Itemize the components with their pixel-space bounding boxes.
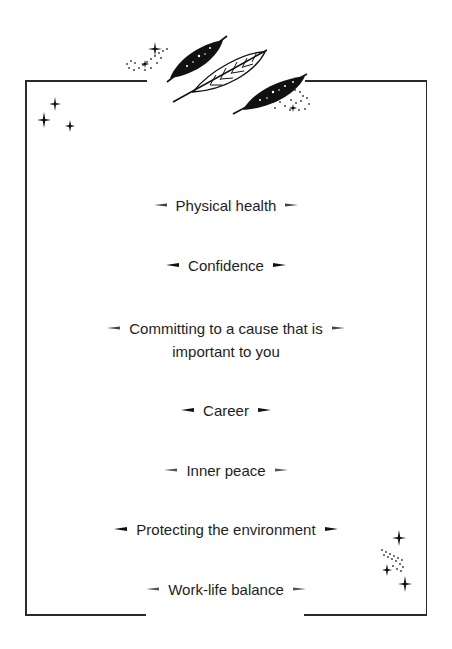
- feathers-icon: [115, 30, 335, 120]
- value-item-confidence: Confidence: [0, 252, 452, 276]
- dash-left-icon: [146, 588, 159, 591]
- value-item-career: Career: [0, 397, 452, 421]
- value-item-physical-health: Physical health: [0, 192, 452, 216]
- dash-right-icon: [293, 588, 306, 591]
- item-label: Inner peace: [186, 461, 265, 481]
- dash-right-icon: [285, 204, 298, 207]
- item-label: Work-life balance: [168, 580, 284, 600]
- dash-left-icon: [181, 409, 194, 412]
- item-label: Confidence: [188, 256, 264, 276]
- dash-right-icon: [275, 469, 288, 472]
- item-label: Protecting the environment: [136, 520, 315, 540]
- dash-right-icon: [332, 327, 345, 330]
- dash-right-icon: [273, 264, 286, 267]
- value-item-work-life-balance: Work-life balance: [0, 576, 452, 600]
- value-item-committing-to-a-cause: Committing to a cause that is important …: [0, 315, 452, 362]
- item-label: Physical health: [176, 196, 277, 216]
- dash-left-icon: [107, 327, 120, 330]
- dash-left-icon: [154, 204, 167, 207]
- frame-bottom-left: [25, 614, 146, 616]
- item-label-line2: important to you: [0, 342, 452, 362]
- frame-bottom-right: [304, 614, 427, 616]
- sparkles-icon: [35, 95, 80, 140]
- item-label: Committing to a cause that is: [129, 319, 322, 339]
- value-item-protecting-environment: Protecting the environment: [0, 516, 452, 540]
- dash-right-icon: [258, 409, 271, 412]
- dash-left-icon: [164, 469, 177, 472]
- item-label: Career: [203, 401, 249, 421]
- dash-left-icon: [114, 528, 127, 531]
- value-item-inner-peace: Inner peace: [0, 457, 452, 481]
- dash-right-icon: [325, 528, 338, 531]
- dash-left-icon: [166, 264, 179, 267]
